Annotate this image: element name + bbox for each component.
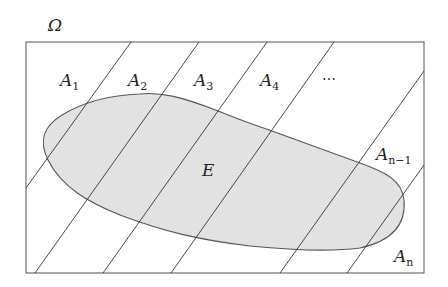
- label-An: An: [392, 246, 413, 269]
- label-An-1: An−1: [374, 144, 412, 167]
- label-A3: A3: [192, 70, 213, 93]
- set-E-label: E: [201, 160, 215, 180]
- set-E-region: [43, 94, 404, 251]
- label-A1: A1: [58, 70, 79, 93]
- ellipsis-label: ⋯: [322, 71, 336, 87]
- omega-label: Ω: [47, 15, 62, 35]
- label-A2: A2: [126, 70, 147, 93]
- label-A4: A4: [258, 70, 279, 93]
- partition-diagram: Ω E A1 A2 A3 A4 ⋯ An−1 An: [0, 0, 448, 287]
